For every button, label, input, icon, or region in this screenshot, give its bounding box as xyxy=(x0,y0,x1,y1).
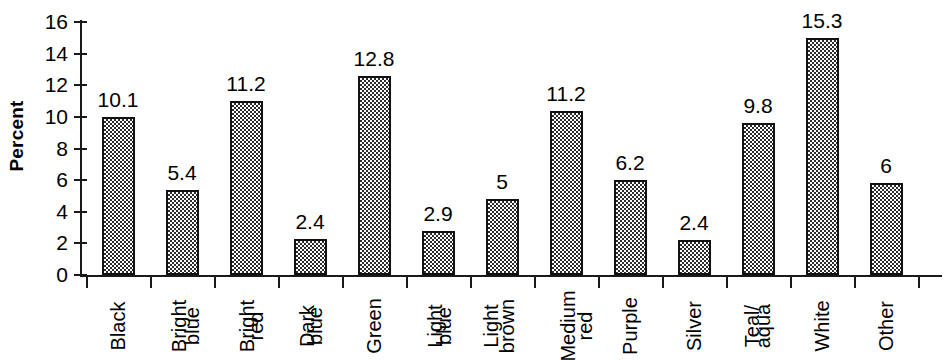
x-axis-tick-mark xyxy=(854,277,856,288)
bar xyxy=(422,231,455,275)
x-axis-tick-mark xyxy=(534,277,536,288)
bar-value-label: 6.2 xyxy=(590,152,670,174)
x-axis-category-label-word: White xyxy=(812,300,832,351)
bar-value-label: 15.3 xyxy=(782,10,862,32)
x-axis-category-label-word: Purple xyxy=(620,297,640,355)
x-axis-category-label-word: blue xyxy=(434,307,454,345)
x-axis-tick-mark xyxy=(406,277,408,288)
bar xyxy=(294,239,327,275)
bar xyxy=(678,240,711,275)
bar xyxy=(166,190,199,275)
bar-value-label: 6 xyxy=(846,155,926,177)
bar-value-label: 11.2 xyxy=(526,83,606,105)
x-axis-category-label-word: Other xyxy=(876,301,896,351)
x-axis-tick-mark xyxy=(278,277,280,288)
x-axis-category-label: Silver xyxy=(662,292,726,358)
x-axis-tick-mark xyxy=(86,277,88,288)
x-axis-category-label: Darkblue xyxy=(278,292,342,358)
x-axis-category-label: Brightred xyxy=(214,292,278,358)
x-axis-category-label: Lightbrown xyxy=(470,292,534,358)
x-axis-tick-mark xyxy=(918,277,920,288)
bar-value-label: 2.9 xyxy=(398,203,478,225)
x-axis-tick-mark xyxy=(150,277,152,288)
bar xyxy=(870,183,903,275)
x-axis-category-label-word: blue xyxy=(305,307,325,345)
x-axis-tick-mark xyxy=(662,277,664,288)
x-axis-category-label: Mediumred xyxy=(534,292,598,358)
bar xyxy=(742,123,775,275)
x-axis-category-label: Purple xyxy=(598,292,662,358)
bar xyxy=(230,101,263,275)
x-axis-tick-mark xyxy=(470,277,472,288)
x-axis-tick-mark xyxy=(342,277,344,288)
bar-value-label: 11.2 xyxy=(206,73,286,95)
x-axis-category-label: Brightblue xyxy=(150,292,214,358)
x-axis-category-label-word: red xyxy=(576,312,596,341)
bar xyxy=(614,180,647,275)
x-axis-category-label: Black xyxy=(86,292,150,358)
x-axis-tick-mark xyxy=(214,277,216,288)
bar-chart: Percent 1614121086420 10.15.411.22.412.8… xyxy=(0,0,944,360)
bar-value-label: 5.4 xyxy=(142,162,222,184)
bar-value-label: 2.4 xyxy=(654,212,734,234)
bar xyxy=(550,111,583,275)
x-axis-category-label-word: Green xyxy=(364,298,384,354)
x-axis-category-label: Green xyxy=(342,292,406,358)
x-axis-category-label-word: Black xyxy=(108,302,128,351)
x-axis-category-label-word: Silver xyxy=(684,301,704,351)
x-axis-category-label-word: red xyxy=(246,312,266,341)
bar-value-label: 2.4 xyxy=(270,211,350,233)
x-axis-tick-mark xyxy=(598,277,600,288)
x-axis-category-label-word: aqua xyxy=(753,304,773,349)
x-axis-tick-mark xyxy=(726,277,728,288)
bar-value-label: 12.8 xyxy=(334,48,414,70)
x-axis-category-label: White xyxy=(790,292,854,358)
bar xyxy=(102,117,135,275)
x-axis-category-label: Teal/aqua xyxy=(726,292,790,358)
bar-value-label: 9.8 xyxy=(718,95,798,117)
x-axis-category-label: Lightblue xyxy=(406,292,470,358)
x-axis-line xyxy=(80,275,942,277)
x-axis-category-label: Other xyxy=(854,292,918,358)
bar xyxy=(806,38,839,275)
x-axis-category-label-word: brown xyxy=(498,299,518,353)
bar-value-label: 10.1 xyxy=(78,89,158,111)
bar xyxy=(358,76,391,275)
bar xyxy=(486,199,519,275)
x-axis-tick-mark xyxy=(790,277,792,288)
x-axis-category-label-word: blue xyxy=(182,307,202,345)
bar-value-label: 5 xyxy=(462,171,542,193)
